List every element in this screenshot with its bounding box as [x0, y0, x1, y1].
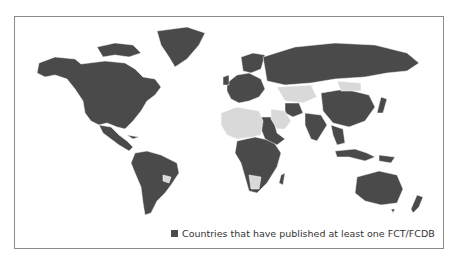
region-russia	[263, 43, 419, 85]
region-mongolia	[337, 81, 361, 91]
region-central-asia	[277, 85, 317, 103]
region-north-america	[37, 57, 161, 129]
region-arctic-islands	[97, 43, 141, 57]
region-north-africa	[221, 107, 263, 139]
region-greenland	[157, 27, 205, 67]
region-india	[305, 113, 327, 141]
map-figure-frame: Countries that have published at least o…	[14, 16, 444, 249]
region-central-america	[99, 125, 133, 151]
region-new-zealand	[411, 195, 423, 213]
legend-label: Countries that have published at least o…	[182, 228, 435, 239]
region-south-america	[131, 151, 179, 215]
legend-swatch	[171, 230, 178, 237]
world-map	[15, 17, 443, 217]
region-europe	[227, 73, 265, 103]
map-legend: Countries that have published at least o…	[171, 228, 435, 239]
region-china	[321, 89, 375, 127]
region-australia	[355, 171, 403, 205]
region-indonesia	[335, 149, 375, 161]
